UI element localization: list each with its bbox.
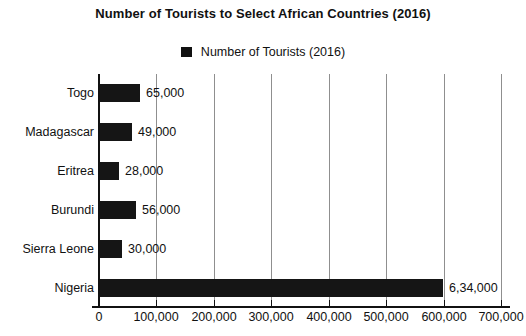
value-axis-line [98,74,100,308]
tick-label-500000: 500,000 [363,310,408,324]
gridline-300000 [271,74,272,306]
gridline-400000 [329,74,330,306]
category-label-sierra-leone: Sierra Leone [5,242,99,256]
bar-eritrea[interactable] [99,162,119,180]
tick-label-200000: 200,000 [191,310,236,324]
tick-mark [386,300,387,307]
bar-value-label: 30,000 [122,242,166,256]
gridline-500000 [386,74,387,306]
category-label-eritrea: Eritrea [5,164,99,178]
tick-mark [329,300,330,307]
category-axis-line [92,306,510,308]
category-label-togo: Togo [5,86,99,100]
gridline-600000 [444,74,445,306]
bar-value-label: 56,000 [136,203,180,217]
bar-chart: Number of Tourists to Select African Cou… [0,0,526,336]
gridline-100000 [156,74,157,306]
chart-legend: Number of Tourists (2016) [0,45,526,59]
plot-area: 65,00049,00028,00056,00030,0006,34,000 [99,74,501,306]
category-label-madagascar: Madagascar [5,125,99,139]
bar-sierra-leone[interactable] [99,240,122,258]
tick-label-400000: 400,000 [306,310,351,324]
tick-mark [99,300,100,307]
bar-togo[interactable] [99,84,140,102]
gridline-200000 [214,74,215,306]
tick-label-0: 0 [96,310,103,324]
tick-label-300000: 300,000 [248,310,293,324]
chart-title: Number of Tourists to Select African Cou… [0,6,526,21]
legend-series-label: Number of Tourists (2016) [201,45,345,59]
tick-mark [501,300,502,307]
category-label-burundi: Burundi [5,203,99,217]
bar-value-label: 65,000 [140,86,184,100]
tick-label-100000: 100,000 [133,310,178,324]
tick-mark [214,300,215,307]
category-label-nigeria: Nigeria [5,281,99,295]
bar-value-label: 49,000 [132,125,176,139]
tick-mark [156,300,157,307]
tick-mark [271,300,272,307]
tick-label-600000: 600,000 [421,310,466,324]
tick-label-700000: 700,000 [478,310,523,324]
category-axis-labels: TogoMadagascarEritreaBurundiSierra Leone… [0,74,99,306]
bar-value-label: 28,000 [119,164,163,178]
bar-value-label: 6,34,000 [443,281,498,295]
bar-nigeria[interactable] [99,279,443,297]
legend-color-swatch [181,47,192,57]
gridline-700000 [501,74,502,306]
tick-mark [444,300,445,307]
bar-burundi[interactable] [99,201,136,219]
bar-madagascar[interactable] [99,123,132,141]
